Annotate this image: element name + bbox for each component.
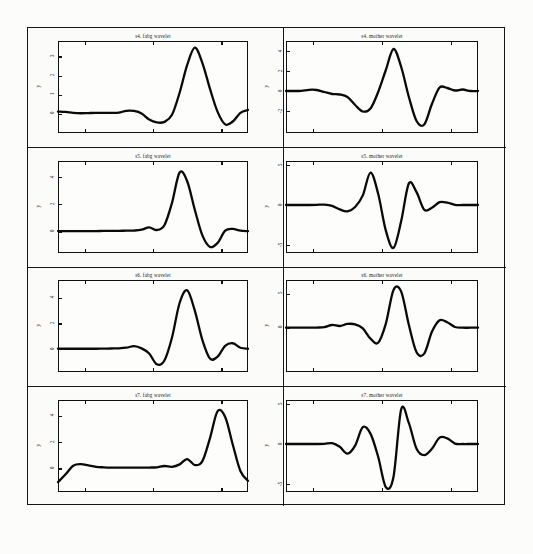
y-axis-label: y [35,200,41,212]
y-tick-label: 5 [277,158,283,172]
y-axis-label: y [263,319,269,331]
y-tick-label: 4 [49,170,55,184]
y-tick-label: 0 [49,106,55,120]
y-tick-label: 4 [49,290,55,304]
figure-page: s4. fabg wavelety0123s4. mother wavelety… [0,0,533,554]
y-tick-label: 0 [277,437,283,451]
plot-panel-s5-mother: s5. mother wavelety-505 [286,161,478,253]
panel-title: s6. mother wavelet [286,272,478,278]
panel-title: s7. fabg wavelet [58,392,248,398]
y-tick-label: 4 [49,408,55,422]
panel-title: s7. mother wavelet [286,392,478,398]
y-axis-label: y [35,80,41,92]
panel-title: s6. fabg wavelet [58,272,248,278]
plot-panel-s6-mother: s6. mother wavelety05 [286,280,478,372]
y-tick-label: 2 [49,68,55,82]
y-tick-label: -5 [277,238,283,252]
y-tick-label: 5 [277,397,283,411]
wavelet-curve [58,161,248,253]
plot-panel-s7-mother: s7. mother wavelety-505 [286,400,478,492]
y-axis-label: y [35,319,41,331]
y-tick-label: 1 [49,87,55,101]
y-tick-label: 2 [49,197,55,211]
wavelet-curve [286,161,478,253]
y-tick-label: 0 [49,342,55,356]
plot-panel-s4-mother: s4. mother wavelety-2024 [286,41,478,133]
y-tick-label: -2 [277,104,283,118]
y-tick-label: 0 [277,198,283,212]
y-tick-label: -5 [277,477,283,491]
y-tick-label: 0 [277,320,283,334]
y-tick-label: 2 [277,64,283,78]
wavelet-curve [286,280,478,372]
wavelet-curve [286,400,478,492]
row-divider-3 [28,386,506,387]
plot-panel-s6-fabg: s6. fabg wavelety024 [58,280,248,372]
plot-panel-s7-fabg: s7. fabg wavelety024 [58,400,248,492]
plot-panel-s5-fabg: s5. fabg wavelety024 [58,161,248,253]
y-axis-label: y [263,200,269,212]
panel-title: s5. fabg wavelet [58,153,248,159]
y-tick-label: 0 [277,84,283,98]
y-tick-label: 2 [49,316,55,330]
wavelet-curve [58,400,248,492]
y-axis-label: y [263,439,269,451]
y-tick-label: 4 [277,44,283,58]
y-tick-label: 0 [49,461,55,475]
wavelet-curve [286,41,478,133]
row-divider-2 [28,267,506,268]
wavelet-curve [58,41,248,133]
y-axis-label: y [263,80,269,92]
figure-outer-frame: s4. fabg wavelety0123s4. mother wavelety… [27,27,505,505]
y-tick-label: 2 [49,435,55,449]
y-tick-label: 5 [277,286,283,300]
row-divider-1 [28,147,506,148]
y-tick-label: 3 [49,49,55,63]
wavelet-curve [58,280,248,372]
panel-title: s5. mother wavelet [286,153,478,159]
plot-panel-s4-fabg: s4. fabg wavelety0123 [58,41,248,133]
y-axis-label: y [35,439,41,451]
y-tick-label: 0 [49,224,55,238]
panel-title: s4. fabg wavelet [58,33,248,39]
panel-title: s4. mother wavelet [286,33,478,39]
